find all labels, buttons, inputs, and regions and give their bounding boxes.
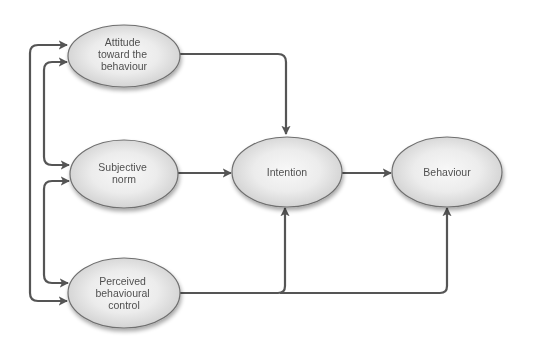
node-subjective-norm: Subjective norm bbox=[70, 140, 178, 208]
label-line: Perceived bbox=[99, 275, 146, 287]
node-behaviour: Behaviour bbox=[392, 137, 502, 207]
node-behaviour-label: Behaviour bbox=[423, 166, 471, 178]
node-intention-label: Intention bbox=[267, 166, 307, 178]
arrow-perceived-control-to-behaviour bbox=[280, 208, 447, 293]
label-line: control bbox=[108, 299, 140, 311]
bidirectional-arrow-attitude-subjective-norm bbox=[44, 62, 69, 165]
label-line: Intention bbox=[267, 166, 307, 178]
node-intention: Intention bbox=[232, 137, 342, 207]
theory-of-planned-behaviour-diagram: Attitude toward the behaviour Subjective… bbox=[0, 0, 534, 349]
arrow-attitude-to-intention bbox=[180, 54, 286, 134]
bidirectional-arrow-attitude-perceived-control bbox=[30, 45, 67, 301]
label-line: Attitude bbox=[105, 36, 141, 48]
arrow-perceived-control-to-intention bbox=[180, 208, 285, 293]
node-perceived-control: Perceived behavioural control bbox=[68, 258, 180, 328]
bidirectional-arrow-subjective-norm-perceived-control bbox=[44, 181, 69, 283]
node-attitude-label: Attitude toward the behaviour bbox=[98, 36, 150, 72]
label-line: Behaviour bbox=[423, 166, 471, 178]
label-line: Subjective bbox=[98, 161, 147, 173]
node-attitude: Attitude toward the behaviour bbox=[68, 25, 180, 87]
label-line: behaviour bbox=[101, 60, 148, 72]
label-line: behavioural bbox=[95, 287, 149, 299]
label-line: toward the bbox=[98, 48, 147, 60]
label-line: norm bbox=[112, 173, 136, 185]
